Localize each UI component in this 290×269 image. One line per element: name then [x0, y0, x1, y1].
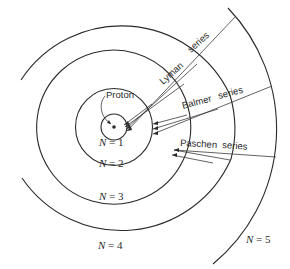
- bohr-diagram: Proton Lyman series Balmer series Pasche…: [0, 0, 290, 269]
- proton-label: Proton: [106, 89, 134, 100]
- paschen-series-suffix: series: [222, 139, 248, 152]
- lyman-series-suffix: series: [185, 29, 211, 54]
- level-label-n2: N = 2: [98, 157, 124, 169]
- lyman-label: Lyman: [157, 59, 185, 86]
- level-label-n3: N = 3: [98, 190, 124, 202]
- orbit-n4-lower: [22, 159, 231, 231]
- level-label-n5: N = 5: [245, 233, 271, 245]
- orbit-n5: [213, 8, 277, 264]
- level-label-n1: N = 1: [98, 136, 124, 148]
- balmer-label: Balmer: [181, 93, 213, 111]
- paschen-label: Paschen: [180, 137, 218, 150]
- proton-dot: [112, 125, 116, 129]
- lyman-series-lines: [124, 16, 236, 131]
- level-label-n4: N = 4: [97, 239, 123, 251]
